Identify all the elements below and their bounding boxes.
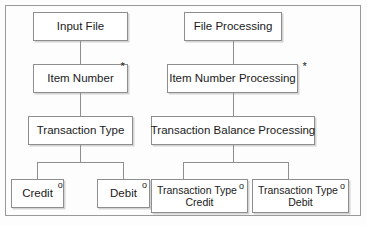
node-item-number-processing-label: Item Number Processing	[169, 72, 296, 84]
iteration-marker-icon: *	[302, 61, 306, 72]
connector-left-level2-to-level3	[80, 93, 81, 116]
node-debit-label: Debit	[110, 187, 137, 199]
diagram-canvas: Input File Item Number * Transaction Typ…	[0, 0, 367, 225]
connector-right-level3-to-branch	[233, 145, 234, 162]
node-input-file[interactable]: Input File	[33, 12, 128, 41]
node-credit[interactable]: Credit o	[11, 179, 64, 208]
connector-right-level2-to-level3	[233, 93, 234, 116]
connector-left-level3-to-branch	[80, 145, 81, 162]
node-transaction-type-debit-line2: Debit	[258, 196, 343, 208]
connector-left-root-to-level2	[80, 41, 81, 64]
connector-left-branch-to-debit	[123, 162, 124, 179]
connector-left-branch-bar	[37, 162, 124, 163]
node-input-file-label: Input File	[57, 20, 104, 32]
connector-left-branch-to-credit	[37, 162, 38, 179]
node-transaction-type-credit[interactable]: Transaction Typeo Credit	[151, 179, 248, 213]
iteration-marker-icon: *	[120, 61, 124, 72]
node-transaction-type-credit-line1: Transaction Type	[157, 184, 237, 196]
connector-right-root-to-level2	[233, 41, 234, 64]
node-transaction-type-label: Transaction Type	[37, 124, 125, 136]
node-transaction-type-debit-line1: Transaction Type	[258, 184, 338, 196]
node-credit-label: Credit	[22, 187, 53, 199]
connector-right-branch-bar	[183, 162, 288, 163]
node-transaction-balance-processing[interactable]: Transaction Balance Processing	[151, 116, 315, 145]
selection-marker-icon: o	[142, 181, 147, 190]
node-transaction-type-credit-line2: Credit	[157, 196, 242, 208]
node-item-number[interactable]: Item Number *	[33, 64, 128, 93]
node-transaction-balance-processing-label: Transaction Balance Processing	[151, 124, 316, 136]
selection-marker-icon: o	[58, 181, 63, 190]
selection-marker-icon: o	[340, 181, 345, 191]
node-debit[interactable]: Debit o	[97, 179, 150, 208]
node-item-number-label: Item Number	[47, 72, 113, 84]
node-item-number-processing[interactable]: Item Number Processing *	[167, 64, 298, 93]
node-file-processing-label: File Processing	[194, 20, 273, 32]
connector-right-branch-to-debit	[288, 162, 289, 179]
diagram-frame: Input File Item Number * Transaction Typ…	[5, 5, 361, 216]
connector-right-branch-to-credit	[183, 162, 184, 179]
node-file-processing[interactable]: File Processing	[184, 12, 282, 41]
selection-marker-icon: o	[239, 181, 244, 191]
node-transaction-type-debit[interactable]: Transaction Typeo Debit	[252, 179, 349, 213]
node-transaction-type[interactable]: Transaction Type	[28, 116, 133, 145]
